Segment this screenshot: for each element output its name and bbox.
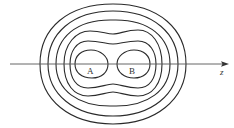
point-label-a: A — [87, 66, 94, 76]
contour-3 — [56, 20, 170, 106]
axis-label-z: z — [219, 67, 224, 77]
contour-4 — [64, 30, 162, 96]
diagram-canvas: z A B — [0, 0, 234, 128]
contour-diagram: z A B — [0, 0, 234, 128]
contour-2 — [48, 11, 178, 116]
point-label-b: B — [129, 66, 135, 76]
contour-5 — [70, 41, 156, 88]
